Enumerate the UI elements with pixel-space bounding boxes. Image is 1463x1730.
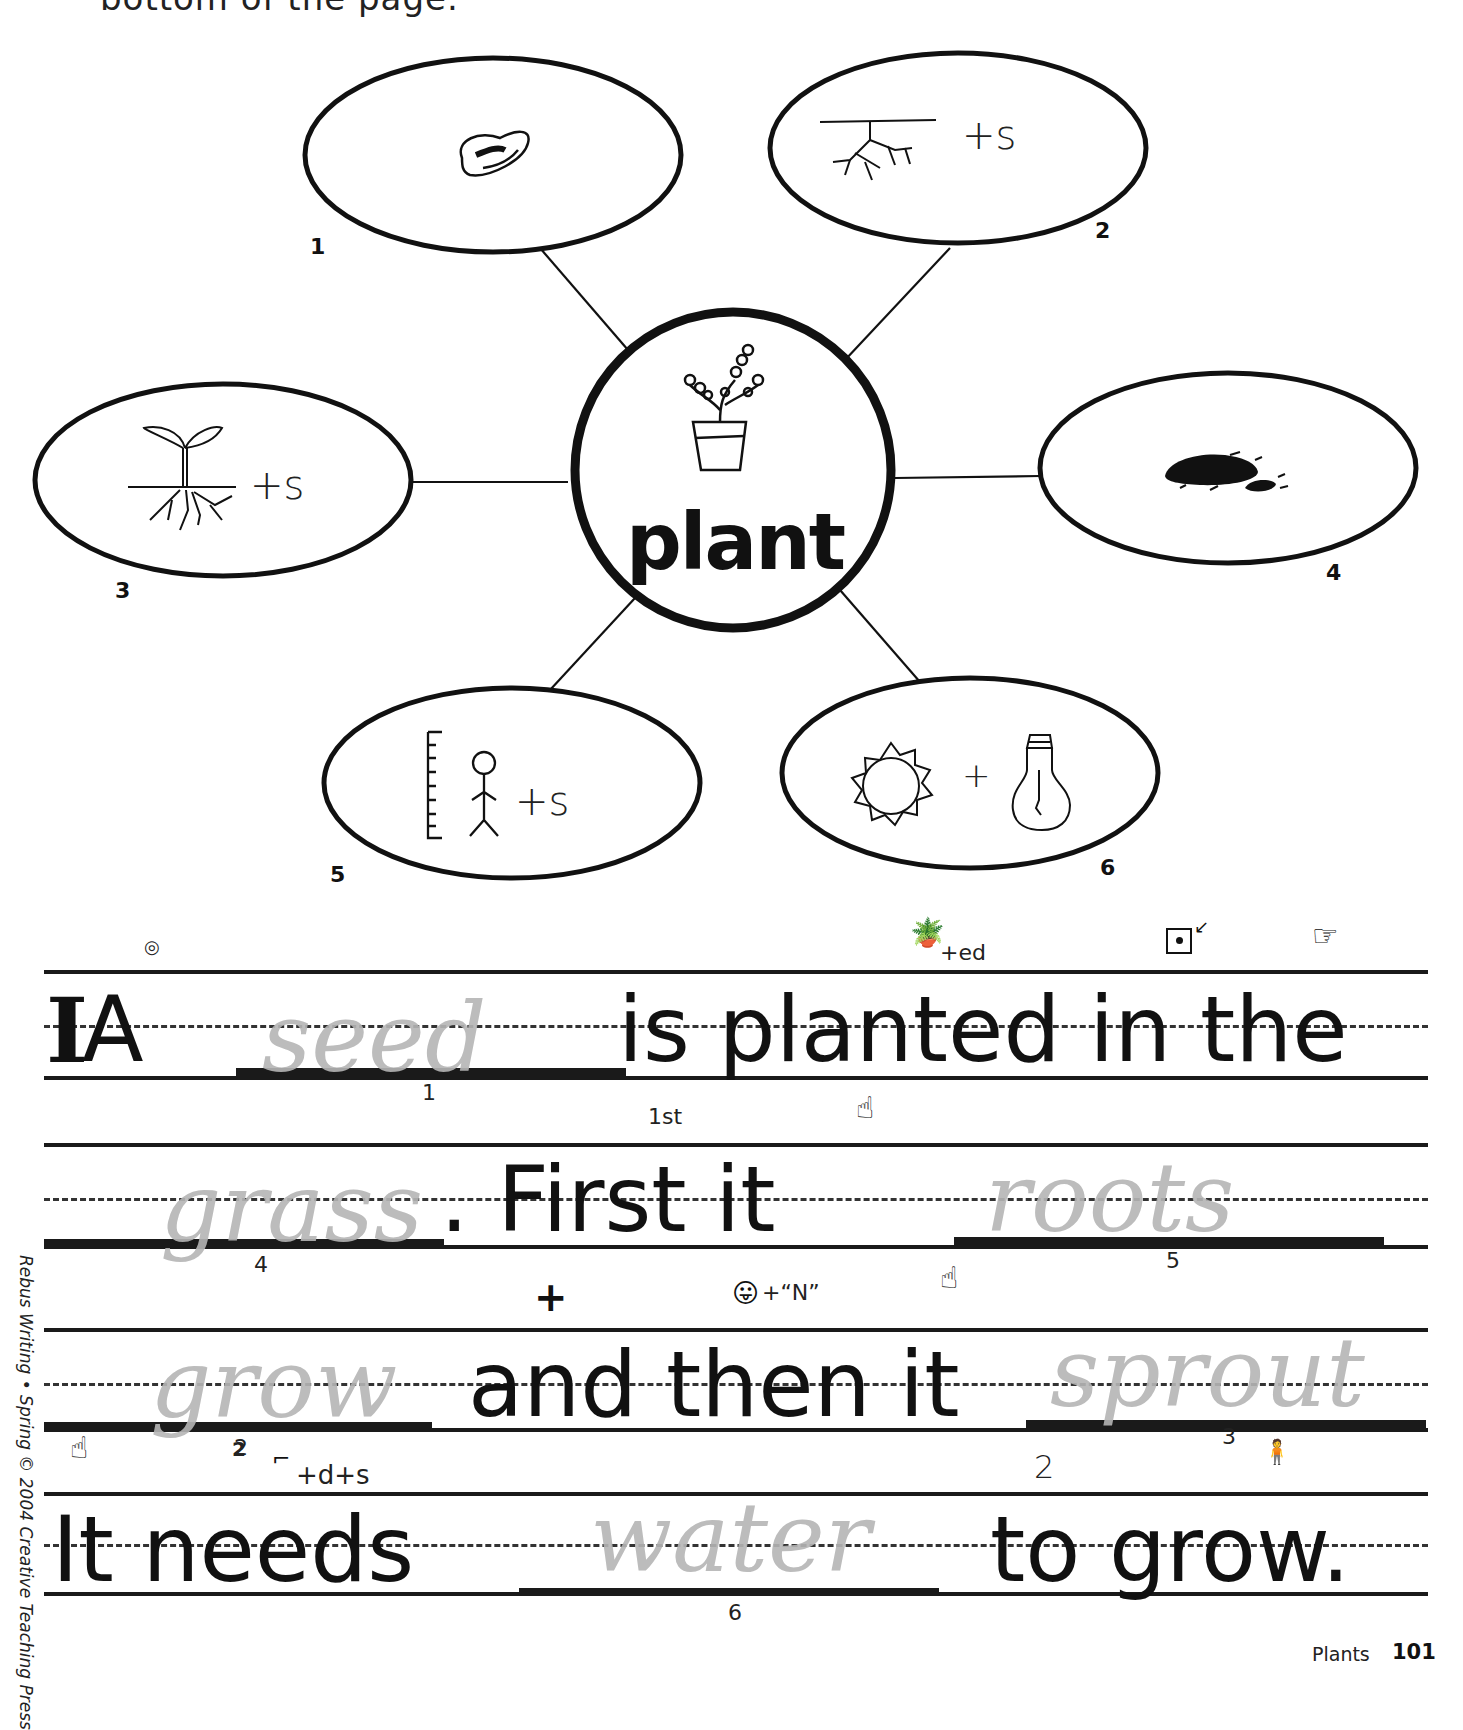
- node-number: 1: [310, 234, 325, 259]
- node-number: 5: [330, 862, 345, 887]
- word-web-diagram: [0, 0, 1463, 900]
- hand-point-i-icon: ☝: [856, 1090, 874, 1125]
- node-number: 3: [115, 578, 130, 603]
- handwritten-answer: sprout: [1050, 1325, 1365, 1421]
- printed-text: and then it: [468, 1340, 960, 1430]
- center-word: plant: [620, 497, 850, 587]
- blank-ref-number: 5: [1166, 1248, 1180, 1273]
- footer-section: Plants: [1312, 1643, 1370, 1665]
- node-plus: +: [962, 755, 991, 795]
- hand-point-i-icon: ☝: [940, 1260, 958, 1295]
- node-1-oval: [305, 58, 681, 252]
- node-suffix: +s: [250, 462, 304, 508]
- node-5-oval: [324, 688, 700, 878]
- handwritten-answer: seed: [262, 990, 486, 1086]
- hand-point-i-icon: ☝: [70, 1430, 88, 1465]
- hint-number: 2: [232, 1437, 246, 1461]
- node-number: 2: [1095, 218, 1110, 243]
- node-number: 4: [1326, 560, 1341, 585]
- clock-icon: ◎: [144, 936, 160, 957]
- handwritten-answer: grass: [160, 1160, 423, 1256]
- blank-ref-number: 3: [1222, 1424, 1236, 1449]
- printed-text: A: [82, 985, 144, 1075]
- hint-first: 1st: [648, 1104, 682, 1129]
- arrow-icon: ↙: [1194, 916, 1209, 937]
- pointing-hand-icon: ☞: [1312, 918, 1339, 953]
- box-dot-arrow-icon: [1166, 928, 1192, 954]
- blank-ref-number: 1: [422, 1080, 436, 1105]
- handwritten-answer: grow: [150, 1336, 397, 1432]
- node-suffix: +s: [515, 778, 569, 824]
- node-suffix: +s: [962, 112, 1016, 158]
- plus-icon: +: [534, 1274, 568, 1320]
- ruler-person-icon: 🧍: [1262, 1438, 1292, 1466]
- printed-text: . First it: [440, 1155, 776, 1245]
- blank-ref-number: 6: [728, 1600, 742, 1625]
- node-number: 6: [1100, 855, 1115, 880]
- node-3-oval: [35, 384, 411, 576]
- blank-ref-number: 4: [254, 1252, 268, 1277]
- tongue-face-icon: 😛: [732, 1278, 759, 1308]
- hint-potted-plant-ed: +ed: [940, 940, 986, 965]
- potted-plant-icon: 🪴: [910, 916, 945, 949]
- printed-text: to grow.: [990, 1505, 1350, 1595]
- hint-number: 2: [1034, 1448, 1054, 1486]
- bent-foot-icon: ⌐: [272, 1446, 290, 1471]
- printed-text: It needs: [52, 1505, 414, 1595]
- handwritten-answer: water: [590, 1490, 871, 1586]
- footer-page-number: 101: [1392, 1640, 1436, 1664]
- hint-d-s: +d+s: [296, 1460, 370, 1490]
- sidebar-credit: Rebus Writing • Spring © 2004 Creative T…: [16, 1255, 36, 1730]
- hint-n: +“N”: [762, 1280, 820, 1305]
- node-2-oval: [770, 53, 1146, 243]
- printed-text: is planted in the: [618, 985, 1348, 1075]
- handwritten-answer: roots: [985, 1150, 1234, 1246]
